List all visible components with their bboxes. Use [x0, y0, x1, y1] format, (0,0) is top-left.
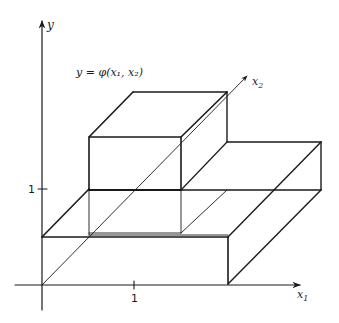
upper-box — [89, 92, 227, 190]
step-function-diagram: y y = φ(x₁, x₂) x2 x1 1 1 — [0, 0, 339, 323]
y-axis-label: y — [46, 18, 54, 32]
x2-axis-label: x2 — [252, 75, 263, 90]
x1-axis-label: x1 — [297, 288, 308, 303]
x1-tick-label: 1 — [131, 292, 138, 305]
formula-label: y = φ(x₁, x₂) — [75, 66, 143, 79]
formula-text: y = φ(x₁, x₂) — [75, 66, 143, 79]
x2-axis — [42, 76, 247, 285]
hidden-edges — [89, 190, 228, 235]
y-tick-label: 1 — [28, 183, 35, 196]
